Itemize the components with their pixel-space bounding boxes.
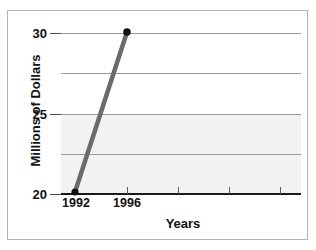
x-tick-label-1992: 1992 (53, 197, 99, 210)
x-tick-mark-1996 (127, 187, 128, 194)
x-tick-mark-2004 (229, 187, 230, 194)
x-axis-line (61, 193, 301, 195)
y-tick-label-30: 30 (23, 27, 47, 40)
gridline-30 (61, 33, 301, 34)
y-axis-title: Millions of Dollars (28, 46, 43, 176)
clipped-title-strip (0, 0, 316, 8)
gridline-22-5 (61, 154, 301, 155)
x-tick-mark-2000 (178, 187, 179, 194)
y-tick-mark-20 (50, 194, 61, 195)
x-axis-title: Years (118, 216, 248, 231)
x-tick-mark-1992 (76, 187, 77, 194)
gridline-25 (61, 114, 301, 115)
y-tick-mark-25 (50, 114, 61, 115)
y-tick-label-20: 20 (23, 188, 47, 201)
x-tick-mark-2008 (280, 187, 281, 194)
x-tick-label-1996: 1996 (104, 197, 150, 210)
y-tick-mark-30 (50, 33, 61, 34)
chart-figure-frame: 30 25 20 1992 1996 Years Millions of Dol… (7, 10, 308, 240)
gridline-27-5 (61, 73, 301, 74)
